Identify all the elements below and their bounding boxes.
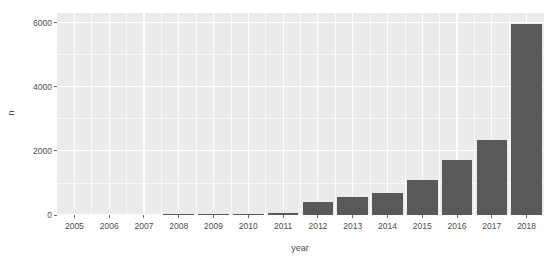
gridline-major-vertical: [352, 13, 353, 215]
y-axis-tick: 4000: [33, 81, 57, 93]
gridline-minor-vertical: [161, 13, 162, 215]
y-axis-tick-label: 2000: [33, 145, 52, 157]
bar: [511, 24, 542, 215]
gridline-minor-vertical: [439, 13, 440, 215]
gridline-major-vertical: [74, 13, 75, 215]
x-axis-tick-mark: [74, 215, 75, 218]
gridline-minor-vertical: [231, 13, 232, 215]
bar: [337, 197, 368, 215]
x-axis-tick-mark: [213, 215, 214, 218]
y-axis-ticks: 0200040006000: [18, 0, 57, 265]
gridline-major-vertical: [283, 13, 284, 215]
gridline-major-vertical: [143, 13, 144, 215]
y-axis-tick-label: 4000: [33, 81, 52, 93]
bar: [372, 193, 403, 215]
gridline-major-vertical: [213, 13, 214, 215]
gridline-minor-vertical: [335, 13, 336, 215]
gridline-minor-vertical: [474, 13, 475, 215]
y-axis-tick: 6000: [33, 17, 57, 29]
x-axis-title: year: [55, 243, 545, 253]
x-axis-tick-mark: [143, 215, 144, 218]
y-axis-tick: 2000: [33, 145, 57, 157]
y-axis-tick-label: 6000: [33, 17, 52, 29]
x-axis-tick-mark: [283, 215, 284, 218]
y-axis-tick-label: 0: [47, 209, 52, 221]
x-axis-tick-mark: [317, 215, 318, 218]
plot-panel: [57, 13, 544, 215]
x-axis-tick-mark: [526, 215, 527, 218]
gridline-major-vertical: [317, 13, 318, 215]
x-axis-tick-mark: [109, 215, 110, 218]
gridline-major-vertical: [387, 13, 388, 215]
x-axis-tick-mark: [248, 215, 249, 218]
gridline-major-vertical: [248, 13, 249, 215]
x-axis-tick-mark: [178, 215, 179, 218]
gridline-minor-vertical: [126, 13, 127, 215]
x-axis-tick: 2018: [507, 215, 547, 231]
gridline-minor-vertical: [300, 13, 301, 215]
bar: [442, 160, 473, 215]
x-axis-tick-mark: [422, 215, 423, 218]
bar: [407, 180, 438, 215]
gridline-minor-vertical: [405, 13, 406, 215]
gridline-minor-vertical: [370, 13, 371, 215]
gridline-minor-vertical: [265, 13, 266, 215]
y-axis-title-label: n: [6, 110, 16, 115]
gridline-major-vertical: [109, 13, 110, 215]
gridline-minor-vertical: [91, 13, 92, 215]
x-axis-tick-mark: [352, 215, 353, 218]
bar-chart: n 0200040006000 200520062007200820092010…: [0, 0, 551, 265]
x-axis-tick-label: 2018: [507, 221, 547, 231]
bar: [303, 202, 334, 215]
gridline-major-vertical: [178, 13, 179, 215]
x-axis-tick-mark: [457, 215, 458, 218]
x-axis-tick-mark: [491, 215, 492, 218]
gridline-minor-vertical: [196, 13, 197, 215]
bar: [477, 140, 508, 215]
gridline-minor-vertical: [509, 13, 510, 215]
x-axis-tick-mark: [387, 215, 388, 218]
